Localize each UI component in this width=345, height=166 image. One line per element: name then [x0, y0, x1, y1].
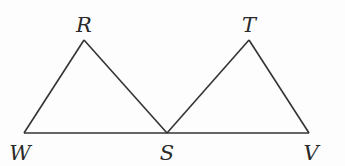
label-W: W: [9, 141, 33, 165]
label-V: V: [303, 141, 320, 165]
diagram-svg: R T W S V: [0, 0, 345, 166]
label-R: R: [75, 13, 92, 37]
segment-ST: [167, 40, 249, 133]
segment-WR: [24, 40, 84, 133]
label-S: S: [160, 141, 174, 165]
segment-RS: [84, 40, 167, 133]
geometry-diagram: R T W S V: [0, 0, 345, 166]
label-T: T: [242, 13, 258, 37]
segment-TV: [249, 40, 309, 133]
